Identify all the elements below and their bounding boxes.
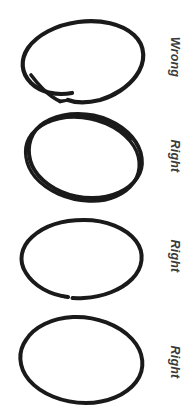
double-stroke-ellipse-sketch	[0, 106, 158, 206]
closed-ellipse-sketch	[0, 306, 158, 417]
row-label: Right	[158, 306, 192, 417]
open-ellipse-sketch	[0, 4, 158, 110]
row-label-text: Right	[168, 140, 182, 173]
row-label: Wrong	[158, 4, 192, 110]
row-label: Right	[158, 106, 192, 206]
row-label-text: Right	[168, 240, 182, 273]
figure-row: Right	[0, 106, 194, 206]
nearly-closed-ellipse-sketch	[0, 206, 158, 306]
row-label: Right	[158, 206, 192, 306]
figure-row: Wrong	[0, 4, 194, 110]
figure-page: Wrong Right	[0, 0, 194, 417]
row-label-text: Right	[168, 345, 182, 378]
figure-row: Right	[0, 206, 194, 306]
row-label-text: Wrong	[168, 37, 182, 77]
figure-row: Right	[0, 306, 194, 417]
